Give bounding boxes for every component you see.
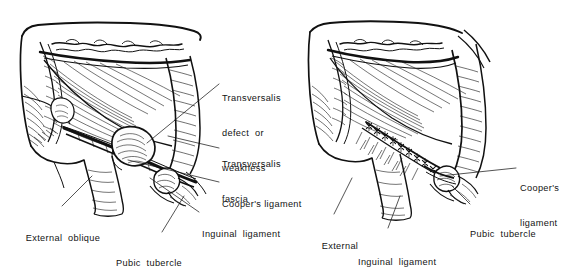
left-panel-drawing (21, 23, 207, 217)
label-line: Transversalis (222, 159, 281, 171)
label-line: Cooper's (520, 183, 559, 195)
label-line: Inguinal ligament (202, 229, 280, 241)
label-line: External oblique (8, 233, 118, 245)
label-external-oblique-aponeurosis-right: External oblique aponeurosis (298, 218, 382, 268)
leader-external-oblique (62, 176, 92, 206)
label-line: Pubic tubercle (470, 229, 536, 241)
label-line: Transversalis (222, 93, 281, 105)
label-inguinal-ligament: Inguinal ligament (202, 206, 280, 264)
leader-pubic-tubercle (162, 196, 184, 232)
label-line: External (298, 241, 382, 253)
label-line: Pubic tubercle (116, 258, 182, 268)
right-panel-drawing (309, 22, 491, 221)
leader-inguinal-ligament-right (388, 196, 400, 228)
label-pubic-tubercle: Pubic tubercle (116, 235, 182, 268)
leader-external-oblique-right (334, 178, 352, 214)
figure-root: Transversalis defect or weakness Transve… (0, 0, 574, 268)
label-pubic-tubercle-right: Pubic tubercle (470, 206, 536, 264)
leader-pubic-tubercle-right (452, 186, 470, 204)
label-external-oblique-aponeurosis: External oblique aponeurosis (8, 210, 118, 268)
